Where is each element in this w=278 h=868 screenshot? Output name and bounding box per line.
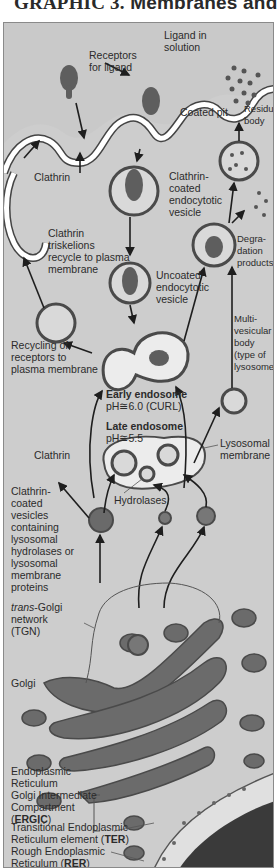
label-clathrin-coated-vesicle: Clathrin- coated endocytotic vesicle [169,170,222,218]
title-suffix: Membranes and [130,0,277,13]
label-ter: Transitional Endoplasmic Reticulum eleme… [11,821,129,845]
label-clathrin-top: Clathrin [34,171,70,183]
label-residual-body: Residual body [244,103,274,127]
label-trans-golgi-network: trans-Golgi network (TGN) [11,601,62,637]
label-receptors-for-ligand: Receptors for ligand [89,49,137,73]
label-coated-pit: Coated pit [180,106,228,118]
label-ligand-in-solution: Ligand in solution [164,29,207,53]
label-clathrin-mid: Clathrin [34,449,70,461]
label-early-endosome: Early endosome [106,388,187,400]
label-clathrin-coated-vesicles-containing: Clathrin- coated vesicles containing lys… [11,485,74,593]
label-early-endosome-ph: pH≅6.0 (CURL) [106,400,182,412]
label-clathrin-triskelions: Clathrin triskelions recycle to plasma m… [48,227,130,275]
label-recycling-receptors: Recycling of receptors to plasma membran… [11,339,98,375]
label-multivesicular-body: Multi- vesicular body (type of lysosome) [234,313,274,373]
label-hydrolases: Hydrolases [114,494,167,506]
label-uncoated-vesicle: Uncoated endocytotic vesicle [156,269,209,305]
label-golgi: Golgi [11,677,36,689]
label-late-endosome: Late endosome [106,420,183,432]
label-late-endosome-ph: pH≅5.5 [106,432,143,444]
endocytosis-diagram-panel: Ligand in solution Receptors for ligand … [3,22,274,868]
label-ergic: Endoplasmic Reticulum Golgi Intermediate… [11,765,97,825]
label-rer: Rough Endoplasmic Reticulum (RER) [11,845,105,868]
label-degradation-products: Degra- dation products [237,233,273,269]
title-prefix: GRAPHIC 3. [14,0,125,13]
page-title: GRAPHIC 3. Membranes and [14,0,277,14]
label-lysosomal-membrane: Lysosomal membrane [220,437,270,461]
